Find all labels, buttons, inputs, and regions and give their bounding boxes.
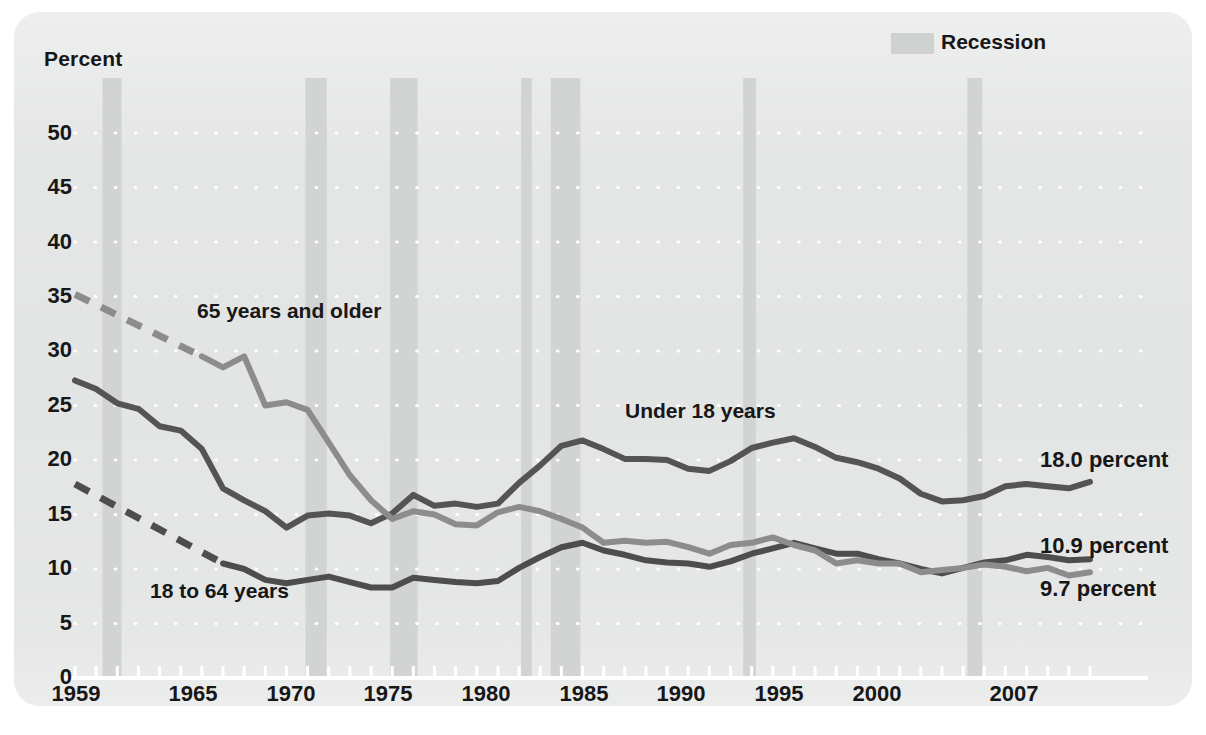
data-line-dashed-65-years-and-older <box>75 294 202 356</box>
x-tick-label-1959: 1959 <box>31 683 121 705</box>
y-tick-label-35: 35 <box>26 285 72 307</box>
recession-band <box>305 78 326 678</box>
x-tick-label-1970: 1970 <box>246 683 336 705</box>
data-lines-group <box>75 294 1090 587</box>
x-tick-label-1965: 1965 <box>148 683 238 705</box>
data-line-65-years-and-older <box>202 356 1090 575</box>
recession-legend-swatch <box>891 33 934 54</box>
y-tick-label-45: 45 <box>26 176 72 198</box>
y-tick-label-5: 5 <box>26 612 72 634</box>
y-tick-label-20: 20 <box>26 448 72 470</box>
x-tick-label-1985: 1985 <box>539 683 629 705</box>
y-tick-label-15: 15 <box>26 503 72 525</box>
x-tick-label-1975: 1975 <box>343 683 433 705</box>
y-tick-label-40: 40 <box>26 231 72 253</box>
y-tick-label-30: 30 <box>26 339 72 361</box>
axis-lines-group <box>63 666 1148 678</box>
end-label-18-to-64: 9.7 percent <box>1040 578 1156 600</box>
x-tick-label-2007: 2007 <box>969 683 1059 705</box>
data-line-18-to-64-years <box>223 543 1090 588</box>
chart-plot-area <box>0 0 1206 735</box>
poverty-rate-chart-figure: Percent Recession 50 45 40 35 30 25 20 1… <box>0 0 1206 735</box>
end-label-65-and-older: 10.9 percent <box>1040 535 1168 557</box>
y-tick-label-50: 50 <box>26 122 72 144</box>
x-tick-label-2000: 2000 <box>832 683 922 705</box>
x-tick-label-1990: 1990 <box>636 683 726 705</box>
y-tick-label-25: 25 <box>26 394 72 416</box>
y-tick-label-10: 10 <box>26 557 72 579</box>
recession-band <box>743 78 756 678</box>
x-tick-label-1980: 1980 <box>441 683 531 705</box>
recession-band <box>967 78 982 678</box>
data-line-dashed-18-to-64-years <box>75 484 223 564</box>
end-label-under-18: 18.0 percent <box>1040 449 1168 471</box>
recession-band <box>551 78 581 678</box>
y-axis-title: Percent <box>44 48 122 69</box>
x-tick-label-1995: 1995 <box>734 683 824 705</box>
recession-legend-label: Recession <box>941 31 1046 52</box>
series-label-65-and-older: 65 years and older <box>197 300 381 321</box>
recession-band <box>102 78 121 678</box>
series-label-18-to-64: 18 to 64 years <box>150 580 289 601</box>
data-line-under-18-years <box>75 380 1090 527</box>
series-label-under-18: Under 18 years <box>625 400 776 421</box>
recession-band <box>521 78 532 678</box>
